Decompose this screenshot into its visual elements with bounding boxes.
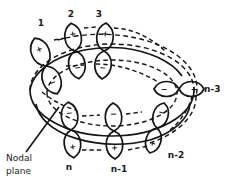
- connector-bot-n-n1: [82, 115, 100, 116]
- position-label-n: n: [66, 162, 72, 172]
- orbital-3: + −: [94, 22, 114, 79]
- orbital-n-1-lower-sign: +: [111, 143, 118, 152]
- nodal-plane-label-line1: Nodal: [6, 153, 32, 163]
- position-label-n-2: n-2: [168, 150, 184, 160]
- orbital-diagram-canvas: + − + − + − + − − +: [0, 0, 238, 184]
- orbital-n-1: − +: [105, 103, 123, 160]
- orbital-n-3-minus-sign: −: [161, 85, 168, 94]
- position-label-2: 2: [68, 9, 74, 19]
- orbital-n-2-upper-sign: −: [157, 107, 166, 117]
- position-label-3: 3: [96, 9, 102, 19]
- orbital-3-upper-sign: +: [102, 29, 109, 38]
- orbital-n-1-upper-sign: −: [110, 109, 117, 118]
- connector-top-2-3: [84, 27, 96, 28]
- orbital-n-2-lower-sign: +: [148, 138, 157, 148]
- orbital-1-upper-sign: +: [34, 44, 44, 55]
- ring-lower-rim-solid: [36, 104, 150, 144]
- orbital-n-2: − +: [143, 101, 172, 155]
- orbital-diagram-figure: + − + − + − + − − +: [0, 0, 238, 184]
- orbital-2-upper-sign: +: [69, 29, 77, 39]
- position-label-n-3: n-3: [204, 84, 220, 94]
- orbital-1-lower-sign: −: [48, 77, 58, 88]
- orbital-n-lower-sign: +: [69, 142, 77, 152]
- orbital-n-upper-sign: −: [65, 108, 73, 118]
- connector-bot-n1-n2: [126, 112, 142, 114]
- position-label-1: 1: [38, 18, 44, 28]
- orbital-2-lower-sign: −: [73, 63, 81, 73]
- position-label-n-1: n-1: [111, 164, 127, 174]
- nodal-plane-label-line2: plane: [6, 166, 31, 176]
- orbital-3-lower-sign: −: [99, 63, 106, 72]
- orbital-n-3-plus-sign: +: [191, 85, 198, 94]
- connector-n2-n3: [170, 96, 192, 130]
- orbital-n: − +: [60, 101, 82, 158]
- orbital-1: + −: [26, 35, 65, 97]
- orbital-n-3: + −: [154, 82, 204, 97]
